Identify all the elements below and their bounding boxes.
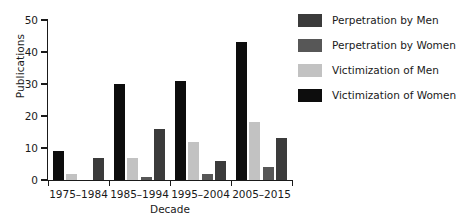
bar [53, 151, 64, 180]
y-axis-tick-label: 30 [0, 79, 38, 90]
x-axis-tick [48, 181, 49, 186]
x-axis-group-label: 1975–1984 [49, 188, 108, 200]
y-axis-tick [41, 115, 47, 116]
y-axis-tick [41, 51, 47, 52]
legend-item: Victimization of Men [298, 58, 440, 83]
y-axis-tick [41, 147, 47, 148]
x-axis-title: Decade [48, 203, 292, 215]
y-axis-tick-label: 0 [0, 175, 38, 186]
legend-swatch-icon [298, 89, 322, 102]
bar [154, 129, 165, 180]
bar [188, 142, 199, 180]
legend-swatch-icon [298, 39, 322, 52]
bar [276, 138, 287, 180]
x-axis-tick [292, 181, 293, 186]
y-axis-tick-label: 20 [0, 111, 38, 122]
bar [114, 84, 125, 180]
x-axis-tick [109, 181, 110, 186]
x-axis-group-label: 1985–1994 [110, 188, 169, 200]
x-axis-tick [231, 181, 232, 186]
bar [127, 158, 138, 180]
y-axis-tick-label: 50 [0, 15, 38, 26]
bar [236, 42, 247, 180]
legend-item: Perpetration by Men [298, 8, 440, 33]
y-axis-tick [41, 179, 47, 180]
x-axis-group-label: 1995–2004 [171, 188, 230, 200]
y-axis-tick-label: 40 [0, 47, 38, 58]
plot-figure: Publications 01020304050 Decade 1975–198… [0, 0, 300, 221]
legend-item: Perpetration by Women [298, 33, 440, 58]
x-axis-group-label: 2005–2015 [232, 188, 291, 200]
legend-label: Victimization of Women [332, 90, 456, 101]
chart-legend: Perpetration by MenPerpetration by Women… [298, 8, 440, 108]
bar [93, 158, 104, 180]
y-axis-tick [41, 83, 47, 84]
legend-swatch-icon [298, 64, 322, 77]
bar [175, 81, 186, 180]
bar [202, 174, 213, 180]
legend-label: Perpetration by Men [332, 15, 439, 26]
legend-swatch-icon [298, 14, 322, 27]
y-axis-tick-labels: 01020304050 [0, 0, 38, 221]
y-axis-tick-label: 10 [0, 143, 38, 154]
legend-label: Victimization of Men [332, 65, 439, 76]
bar [141, 177, 152, 180]
y-axis-tick [41, 19, 47, 20]
x-axis-tick [170, 181, 171, 186]
plot-area [48, 20, 292, 180]
legend-label: Perpetration by Women [332, 40, 456, 51]
bar [263, 167, 274, 180]
bar [249, 122, 260, 180]
legend-item: Victimization of Women [298, 83, 440, 108]
bar [66, 174, 77, 180]
bar [215, 161, 226, 180]
